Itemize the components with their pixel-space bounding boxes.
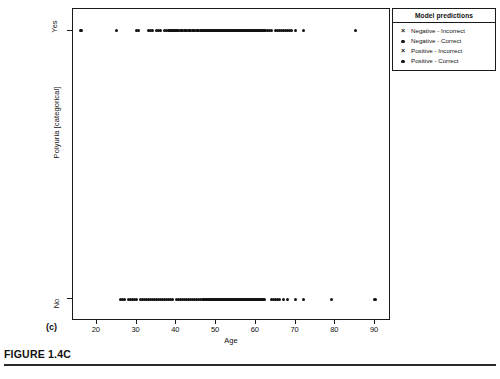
x-tick-mark	[175, 320, 176, 324]
data-point	[262, 298, 265, 301]
plot-area	[72, 8, 390, 320]
x-tick-mark	[96, 320, 97, 324]
legend-item-label: Positive - Correct	[411, 56, 458, 66]
data-point	[79, 29, 82, 32]
panel-letter: (c)	[46, 322, 57, 332]
x-axis-title: Age	[72, 336, 390, 345]
x-tick-mark	[334, 320, 335, 324]
legend-item[interactable]: Positive - Correct	[395, 56, 493, 66]
data-point	[373, 298, 376, 301]
data-point	[354, 29, 357, 32]
x-tick-label: 80	[322, 325, 346, 334]
x-tick-mark	[255, 320, 256, 324]
figure-caption: FIGURE 1.4C	[0, 348, 500, 360]
data-point	[123, 298, 126, 301]
y-tick-mark	[67, 298, 73, 299]
x-tick-label: 60	[243, 325, 267, 334]
data-point	[302, 29, 305, 32]
x-tick-label: 20	[84, 325, 108, 334]
data-point	[278, 298, 281, 301]
data-point	[294, 29, 297, 32]
caption-block: FIGURE 1.4C	[0, 348, 500, 366]
data-point	[135, 298, 138, 301]
data-point	[294, 298, 297, 301]
data-point	[290, 29, 293, 32]
legend-item[interactable]: Positive - Incorrect	[395, 46, 493, 56]
x-tick-label: 70	[283, 325, 307, 334]
data-point	[302, 298, 305, 301]
circle-marker-icon	[395, 36, 411, 46]
legend: Model predictions Negative - IncorrectNe…	[392, 8, 496, 71]
data-point	[270, 29, 273, 32]
cross-marker-icon	[395, 46, 411, 56]
data-point	[115, 29, 118, 32]
circle-marker-icon	[395, 56, 411, 66]
y-tick-label-no: No	[52, 292, 61, 316]
x-tick-mark	[374, 320, 375, 324]
legend-items: Negative - IncorrectNegative - CorrectPo…	[393, 23, 495, 70]
legend-item[interactable]: Negative - Incorrect	[395, 26, 493, 36]
x-tick-label: 40	[163, 325, 187, 334]
data-point	[137, 29, 140, 32]
x-tick-mark	[136, 320, 137, 324]
x-tick-mark	[295, 320, 296, 324]
data-point	[159, 29, 162, 32]
data-point	[282, 298, 285, 301]
data-point	[151, 29, 154, 32]
figure-region: Polyuria [categorical] Yes No 2030405060…	[0, 0, 500, 344]
legend-item[interactable]: Negative - Correct	[395, 36, 493, 46]
x-tick-label: 90	[362, 325, 386, 334]
legend-title: Model predictions	[393, 9, 495, 23]
y-tick-label-yes: Yes	[50, 15, 59, 39]
x-tick-mark	[215, 320, 216, 324]
data-point	[330, 298, 333, 301]
legend-item-label: Positive - Incorrect	[411, 46, 462, 56]
legend-item-label: Negative - Incorrect	[411, 26, 465, 36]
cross-marker-icon	[395, 26, 411, 36]
data-point	[171, 298, 174, 301]
data-point	[286, 298, 289, 301]
y-axis-title: Polyuria [categorical]	[52, 23, 61, 223]
legend-item-label: Negative - Correct	[411, 36, 461, 46]
x-tick-label: 30	[124, 325, 148, 334]
y-tick-mark	[67, 30, 73, 31]
caption-divider	[4, 364, 496, 366]
x-tick-label: 50	[203, 325, 227, 334]
